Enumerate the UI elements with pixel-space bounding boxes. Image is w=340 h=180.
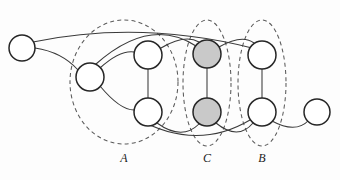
graph-node: [248, 98, 276, 126]
graph-canvas: ACB: [0, 0, 340, 180]
graph-edge: [272, 120, 309, 127]
graph-node-shaded: [193, 40, 221, 68]
graph-edge: [161, 39, 199, 48]
graph-node: [304, 99, 330, 125]
graph-edge: [100, 86, 134, 110]
graph-node-shaded: [193, 98, 221, 126]
graph-node: [134, 41, 162, 69]
graph-edge: [100, 52, 134, 68]
cluster-label-a: A: [119, 151, 128, 165]
cluster-labels-group: ACB: [119, 151, 266, 165]
graph-node: [248, 41, 276, 69]
graph-node: [76, 63, 104, 91]
graph-figure: ACB: [0, 0, 340, 180]
graph-node: [9, 35, 35, 61]
cluster-label-b: B: [258, 151, 266, 165]
graph-edge: [219, 39, 254, 47]
cluster-label-c: C: [203, 151, 212, 165]
graph-node: [134, 98, 162, 126]
